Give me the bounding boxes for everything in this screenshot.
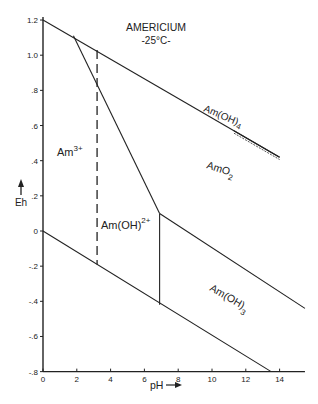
ph-label: pH — [150, 379, 163, 391]
chart-title: AMERICIUM — [126, 21, 186, 33]
y-tick-label: 1.2 — [27, 16, 39, 25]
y-axis-label: Eh — [15, 179, 27, 208]
x-tick-label: 8 — [176, 375, 181, 384]
label-amoh2: Am(OH)2+ — [101, 216, 151, 231]
label-amoh4: Am(OH)4 — [201, 103, 245, 132]
x-tick-label: 10 — [208, 375, 217, 384]
pourbaix-diagram: 1.21.0.8.6.4.20-.2-.4-.6-.802468101214 A… — [0, 0, 318, 404]
label-am3: Am3+ — [57, 144, 83, 158]
boundary-lines — [43, 20, 305, 372]
y-tick-label: -.4 — [29, 297, 39, 306]
y-tick-label: -.8 — [29, 368, 39, 377]
x-tick-label: 0 — [41, 375, 46, 384]
y-tick-label: .6 — [31, 122, 38, 131]
x-tick-label: 14 — [275, 375, 284, 384]
label-amo2: AmO2 — [204, 158, 236, 182]
x-tick-label: 4 — [108, 375, 113, 384]
x-tick-label: 6 — [142, 375, 147, 384]
y-tick-label: .8 — [31, 86, 38, 95]
y-tick-label: 1.0 — [27, 51, 39, 60]
chart-subtitle: -25°C- — [141, 35, 170, 46]
x-tick-label: 12 — [241, 375, 250, 384]
y-tick-label: .2 — [31, 192, 38, 201]
eh-label: Eh — [15, 197, 27, 208]
boundary-line — [234, 131, 280, 157]
y-tick-label: .4 — [31, 157, 38, 166]
axes: 1.21.0.8.6.4.20-.2-.4-.6-.802468101214 — [27, 16, 305, 384]
label-amoh3: Am(OH)3 — [206, 281, 252, 317]
y-tick-label: -.2 — [29, 262, 39, 271]
y-tick-label: -.6 — [29, 332, 39, 341]
x-tick-label: 2 — [75, 375, 80, 384]
y-tick-label: 0 — [34, 227, 39, 236]
boundary-line — [234, 133, 280, 159]
